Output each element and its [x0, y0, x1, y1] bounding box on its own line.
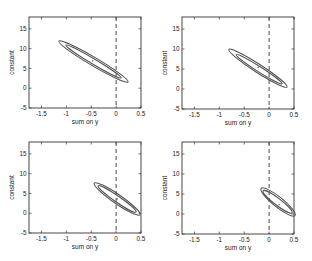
- confidence-ellipse-inner: [235, 52, 284, 86]
- y-tick-label: -5: [174, 230, 180, 237]
- subplot-top-left: -1.5-1-0.500.5-5051015sum on yconstant: [8, 17, 146, 126]
- x-tick-label: 0.5: [290, 111, 299, 118]
- y-tick-label: 15: [172, 150, 180, 157]
- center-point-marker: [278, 204, 279, 205]
- x-tick-label: 0.5: [137, 110, 146, 117]
- x-tick-label: 0.5: [137, 235, 146, 242]
- y-tick-label: 10: [172, 170, 180, 177]
- y-tick-label: 10: [19, 170, 27, 177]
- y-tick-label: 15: [19, 25, 27, 32]
- y-tick-label: 0: [176, 210, 180, 217]
- x-tick-label: -1: [217, 236, 223, 243]
- y-tick-label: -5: [21, 229, 27, 236]
- y-tick-label: 15: [172, 25, 180, 32]
- y-tick-label: 5: [23, 65, 27, 72]
- x-tick-label: -1: [64, 235, 70, 242]
- center-point-marker: [92, 60, 93, 61]
- y-tick-label: -5: [21, 104, 27, 111]
- center-point-marker: [257, 67, 258, 68]
- y-tick-label: -5: [174, 105, 180, 112]
- axes-box: [29, 17, 141, 108]
- figure: -1.5-1-0.500.5-5051015sum on yconstant -…: [0, 0, 312, 261]
- x-tick-label: -1.5: [36, 235, 47, 242]
- y-tick-label: 0: [23, 84, 27, 91]
- subplot-bottom-right: -1.5-1-0.500.5-5051015sum on yconstant: [161, 142, 299, 252]
- subplot-bottom-left: -1.5-1-0.500.5-5051015sum on yconstant: [8, 142, 146, 251]
- x-axis-label: sum on y: [72, 118, 99, 126]
- x-tick-label: 0: [267, 111, 271, 118]
- x-tick-label: 0: [114, 235, 118, 242]
- subplot-top-right: -1.5-1-0.500.5-5051015sum on yconstant: [161, 17, 299, 127]
- x-tick-label: -0.5: [86, 235, 97, 242]
- y-axis-label: constant: [161, 176, 168, 201]
- axes-box: [29, 142, 141, 233]
- y-tick-label: 0: [23, 209, 27, 216]
- x-tick-label: -1: [64, 110, 70, 117]
- x-tick-label: -1.5: [189, 111, 200, 118]
- center-point-marker: [116, 198, 117, 199]
- y-tick-label: 10: [172, 45, 180, 52]
- x-tick-label: -0.5: [239, 236, 250, 243]
- y-tick-label: 10: [19, 45, 27, 52]
- y-tick-label: 5: [176, 65, 180, 72]
- y-axis-label: constant: [8, 50, 15, 75]
- x-tick-label: -1: [217, 111, 223, 118]
- confidence-ellipse-inner: [65, 43, 123, 80]
- x-tick-label: -0.5: [239, 111, 250, 118]
- y-tick-label: 15: [19, 150, 27, 157]
- x-tick-label: -1.5: [189, 236, 200, 243]
- y-tick-label: 5: [23, 190, 27, 197]
- x-tick-label: 0.5: [290, 236, 299, 243]
- y-axis-label: constant: [8, 175, 15, 200]
- x-axis-label: sum on y: [225, 244, 252, 252]
- y-tick-label: 5: [176, 190, 180, 197]
- y-tick-label: 0: [176, 85, 180, 92]
- confidence-ellipse-inner: [261, 188, 294, 215]
- x-axis-label: sum on y: [225, 119, 252, 127]
- y-axis-label: constant: [161, 51, 168, 76]
- x-tick-label: 0: [267, 236, 271, 243]
- x-axis-label: sum on y: [72, 243, 99, 251]
- x-tick-label: -1.5: [36, 110, 47, 117]
- x-tick-label: -0.5: [86, 110, 97, 117]
- axes-box: [182, 142, 294, 234]
- axes-box: [182, 17, 294, 109]
- x-tick-label: 0: [114, 110, 118, 117]
